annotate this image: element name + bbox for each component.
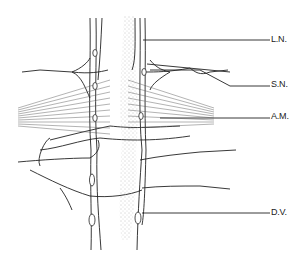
label-am: A.M. — [271, 111, 289, 121]
label-ln: L.N. — [271, 34, 287, 44]
nerve-cord-drawing — [0, 0, 305, 254]
label-dv: D.V. — [271, 207, 287, 217]
label-sn: S.N. — [271, 79, 288, 89]
diagram: L.N. S.N. A.M. D.V. — [0, 0, 305, 254]
